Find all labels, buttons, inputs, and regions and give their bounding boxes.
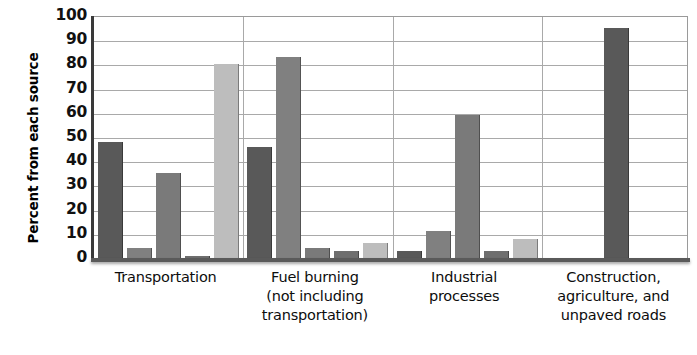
y-tick-0: 0 bbox=[77, 250, 88, 266]
y-tick-80: 80 bbox=[66, 57, 87, 73]
gridline-80 bbox=[94, 65, 687, 66]
y-axis-tick-labels: 0102030405060708090100 bbox=[40, 8, 87, 261]
gridline-30 bbox=[94, 186, 687, 187]
bar-group-2-series-3 bbox=[305, 248, 330, 258]
plot-frame bbox=[94, 16, 688, 258]
gridline-70 bbox=[94, 90, 687, 91]
y-tick-100: 100 bbox=[56, 8, 87, 24]
gridline-90 bbox=[94, 41, 687, 42]
gridline-60 bbox=[94, 114, 687, 115]
x-category-label-line: agriculture, and bbox=[525, 287, 697, 306]
bar-group-2-series-4 bbox=[334, 251, 359, 258]
bar-group-3-series-4 bbox=[484, 251, 509, 258]
bar-group-2-series-5 bbox=[363, 243, 388, 258]
y-tick-60: 60 bbox=[66, 105, 87, 121]
bar-group-3-series-2 bbox=[426, 231, 451, 258]
group-separator-2 bbox=[393, 17, 394, 258]
gridline-40 bbox=[94, 162, 687, 163]
bar-group-1-series-1 bbox=[98, 142, 123, 258]
bar-group-3-series-1 bbox=[397, 251, 422, 258]
y-tick-10: 10 bbox=[66, 226, 87, 242]
bar-group-2-series-1 bbox=[247, 147, 272, 258]
gridline-10 bbox=[94, 235, 687, 236]
y-axis-title: Percent from each source bbox=[25, 23, 41, 273]
y-tick-30: 30 bbox=[66, 178, 87, 194]
x-axis-category-labels: TransportationFuel burning(not including… bbox=[91, 268, 688, 354]
y-tick-50: 50 bbox=[66, 129, 87, 145]
group-separator-1 bbox=[243, 17, 244, 258]
gridline-50 bbox=[94, 138, 687, 139]
bar-group-1-series-3 bbox=[156, 173, 181, 258]
y-tick-70: 70 bbox=[66, 81, 87, 97]
bar-group-1-series-2 bbox=[127, 248, 152, 258]
gridline-20 bbox=[94, 211, 687, 212]
bar-group-4-series-1 bbox=[604, 28, 629, 258]
x-axis-baseline bbox=[91, 258, 690, 262]
x-category-label-line: Construction, bbox=[525, 268, 697, 287]
bar-group-2-series-2 bbox=[276, 57, 301, 258]
bar-group-3-series-3 bbox=[455, 115, 480, 258]
x-category-label-4: Construction,agriculture, andunpaved roa… bbox=[525, 268, 697, 325]
plot-area bbox=[91, 16, 688, 258]
x-category-label-line: unpaved roads bbox=[525, 306, 697, 325]
bar-group-1-series-5 bbox=[214, 64, 239, 258]
y-tick-90: 90 bbox=[66, 32, 87, 48]
group-separator-3 bbox=[542, 17, 543, 258]
bar-group-3-series-5 bbox=[513, 239, 538, 258]
y-tick-20: 20 bbox=[66, 202, 87, 218]
x-category-label-line: transportation) bbox=[226, 306, 403, 325]
y-tick-40: 40 bbox=[66, 153, 87, 169]
